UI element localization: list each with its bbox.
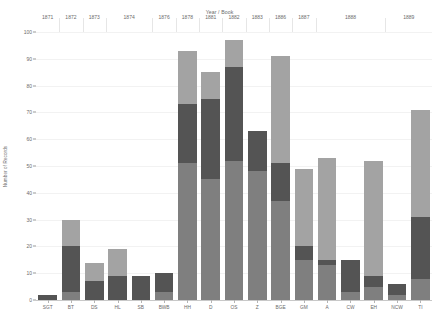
bar-segment-segment-3[interactable]	[411, 110, 430, 217]
bar-sb[interactable]	[132, 276, 151, 300]
y-tick-label: 30	[26, 217, 32, 223]
bar-segment-segment-1[interactable]	[178, 163, 197, 300]
bar-hl[interactable]	[108, 249, 127, 300]
x-tick-mark	[94, 300, 95, 303]
bar-segment-segment-2[interactable]	[178, 104, 197, 163]
bar-segment-segment-2[interactable]	[225, 67, 244, 161]
year-group-1881: 1881	[199, 14, 222, 32]
x-tick-label-ncw: NCW	[391, 305, 402, 310]
bar-segment-segment-3[interactable]	[108, 249, 127, 276]
x-tick-mark	[141, 300, 142, 303]
bar-segment-segment-2[interactable]	[295, 246, 314, 259]
bar-segment-segment-2[interactable]	[411, 217, 430, 279]
bar-segment-segment-1[interactable]	[225, 161, 244, 300]
bar-d[interactable]	[201, 72, 220, 300]
y-tick-label: 90	[26, 56, 32, 62]
y-tick-label: 20	[26, 243, 32, 249]
bar-segment-segment-3[interactable]	[201, 72, 220, 99]
year-group-label: 1873	[83, 14, 106, 20]
bar-segment-segment-2[interactable]	[364, 276, 383, 287]
year-group-1873: 1873	[83, 14, 106, 32]
bar-segment-segment-2[interactable]	[85, 281, 104, 300]
bar-gm[interactable]	[295, 169, 314, 300]
bar-segment-segment-2[interactable]	[388, 284, 407, 295]
x-tick-label-ti: TI	[418, 305, 422, 310]
bar-segment-segment-1[interactable]	[62, 292, 81, 300]
x-tick-label-eh: EH	[370, 305, 377, 310]
bar-a[interactable]	[318, 158, 337, 300]
x-tick-mark	[164, 300, 165, 303]
x-tick-mark	[71, 300, 72, 303]
bar-bt[interactable]	[62, 220, 81, 300]
bar-segment-segment-2[interactable]	[248, 131, 267, 171]
bar-os[interactable]	[225, 40, 244, 300]
year-group-1876: 1876	[152, 14, 175, 32]
x-tick-mark	[350, 300, 351, 303]
x-tick-mark	[257, 300, 258, 303]
bar-ti[interactable]	[411, 110, 430, 300]
year-group-label: 1887	[292, 14, 315, 20]
bar-eh[interactable]	[364, 161, 383, 300]
bar-segment-segment-3[interactable]	[271, 56, 290, 163]
bar-segment-segment-3[interactable]	[62, 220, 81, 247]
bar-segment-segment-2[interactable]	[318, 260, 337, 265]
bar-segment-segment-1[interactable]	[411, 279, 430, 300]
year-group-1878: 1878	[176, 14, 199, 32]
bar-ncw[interactable]	[388, 284, 407, 300]
year-group-1871: 1871	[36, 14, 59, 32]
bar-cw[interactable]	[341, 260, 360, 300]
bar-segment-segment-1[interactable]	[201, 179, 220, 300]
bar-segment-segment-3[interactable]	[295, 169, 314, 247]
gridline-horizontal	[36, 32, 432, 33]
y-axis: 0102030405060708090100	[0, 32, 36, 300]
x-tick-label-d: D	[209, 305, 212, 310]
bar-segment-segment-1[interactable]	[364, 287, 383, 300]
bar-z[interactable]	[248, 131, 267, 300]
bar-hh[interactable]	[178, 51, 197, 300]
bar-segment-segment-1[interactable]	[295, 260, 314, 300]
x-tick-label-a: A	[326, 305, 329, 310]
bar-segment-segment-3[interactable]	[364, 161, 383, 276]
x-tick-label-bge: BGE	[276, 305, 286, 310]
bar-segment-segment-1[interactable]	[318, 265, 337, 300]
x-tick-label-bwb: BWB	[159, 305, 170, 310]
year-group-label: 1871	[36, 14, 59, 20]
bar-segment-segment-2[interactable]	[341, 260, 360, 292]
bar-segment-segment-3[interactable]	[225, 40, 244, 67]
x-tick-mark	[211, 300, 212, 303]
y-tick-label: 60	[26, 136, 32, 142]
x-tick-label-hh: HH	[184, 305, 191, 310]
x-tick-mark	[327, 300, 328, 303]
year-group-1872: 1872	[59, 14, 82, 32]
year-group-1874: 1874	[106, 14, 153, 32]
bar-ds[interactable]	[85, 262, 104, 300]
bar-segment-segment-2[interactable]	[201, 99, 220, 179]
y-tick-label: 100	[24, 29, 32, 35]
bar-segment-segment-1[interactable]	[271, 201, 290, 300]
bar-segment-segment-3[interactable]	[318, 158, 337, 260]
y-tick-label: 50	[26, 163, 32, 169]
bar-bge[interactable]	[271, 56, 290, 300]
bar-segment-segment-3[interactable]	[178, 51, 197, 105]
x-tick-label-ds: DS	[91, 305, 98, 310]
bar-segment-segment-2[interactable]	[132, 276, 151, 300]
bar-segment-segment-1[interactable]	[248, 171, 267, 300]
x-tick-mark	[48, 300, 49, 303]
bar-segment-segment-1[interactable]	[341, 292, 360, 300]
bar-bwb[interactable]	[155, 273, 174, 300]
bar-segment-segment-2[interactable]	[155, 273, 174, 292]
year-group-label: 1874	[106, 14, 153, 20]
bar-segment-segment-2[interactable]	[271, 163, 290, 201]
x-tick-mark	[281, 300, 282, 303]
x-tick-label-sgt: SGT	[43, 305, 53, 310]
bar-segment-segment-2[interactable]	[62, 246, 81, 292]
bar-segment-segment-3[interactable]	[85, 263, 104, 282]
year-group-label: 1872	[59, 14, 82, 20]
year-group-label: 1886	[269, 14, 292, 20]
x-tick-mark	[234, 300, 235, 303]
y-tick-label: 0	[29, 297, 32, 303]
bar-segment-segment-2[interactable]	[108, 276, 127, 300]
y-tick-label: 10	[26, 270, 32, 276]
bar-segment-segment-1[interactable]	[155, 292, 174, 300]
year-group-1887: 1887	[292, 14, 315, 32]
